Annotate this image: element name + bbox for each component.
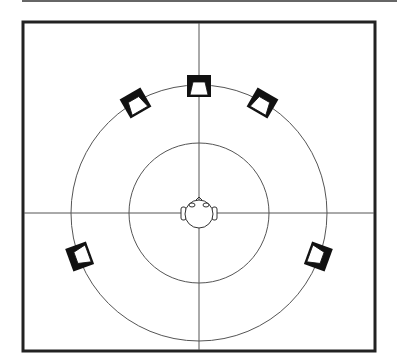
speaker-layout-diagram — [0, 0, 397, 363]
speaker-surround-right-icon — [304, 241, 333, 271]
speaker-center-icon — [187, 75, 211, 97]
listener-head-icon — [181, 197, 217, 228]
speaker-front-right-icon — [247, 87, 279, 118]
speaker-surround-left-icon — [65, 241, 94, 271]
speaker-front-left-icon — [120, 87, 152, 118]
